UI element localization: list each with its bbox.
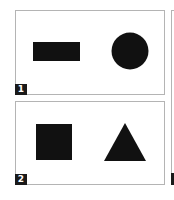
panel-2: 2 <box>15 101 165 185</box>
panel-number-badge: 1 <box>15 84 27 95</box>
panel-number-badge <box>171 173 174 185</box>
rectangle-shape <box>33 42 80 61</box>
triangle-shape <box>104 123 146 161</box>
circle-shape <box>111 32 149 70</box>
panel-number-badge: 2 <box>15 174 27 185</box>
square-shape <box>36 124 72 160</box>
panel-3-partial <box>171 10 174 185</box>
panel-1: 1 <box>15 10 165 95</box>
